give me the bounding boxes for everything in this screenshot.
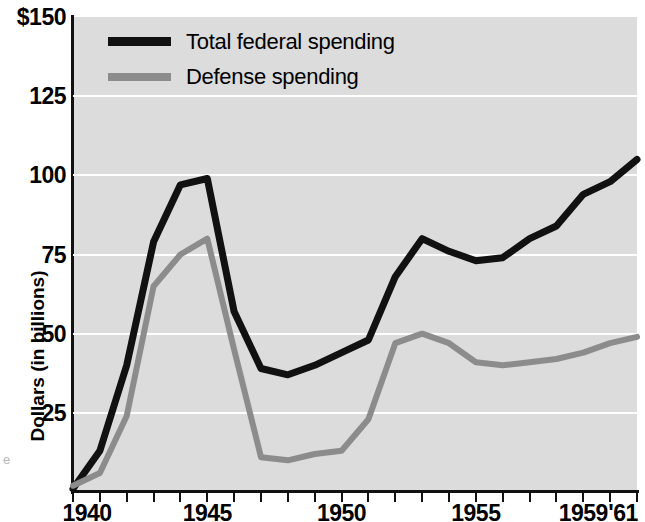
- x-tick: [260, 491, 262, 502]
- x-tick: [394, 491, 396, 502]
- y-tick-label: 100: [29, 162, 66, 189]
- x-tick: [555, 491, 557, 502]
- legend-item: Defense spending: [108, 59, 395, 94]
- y-axis-title: Dollars (in billions): [27, 222, 49, 490]
- x-tick-label: 1940: [62, 500, 111, 522]
- gridline: [73, 333, 637, 335]
- x-tick: [502, 491, 504, 502]
- x-tick-label: 1950: [317, 500, 366, 522]
- page-margin-artifact: e: [3, 452, 10, 467]
- x-tick-label: 1959: [559, 500, 608, 522]
- legend-label: Total federal spending: [186, 29, 395, 55]
- x-tick: [421, 491, 423, 502]
- gridline: [73, 254, 637, 256]
- x-tick-label: 1955: [451, 500, 500, 522]
- x-tick: [126, 491, 128, 502]
- spending-line-chart: $150125100755025 19401945195019551959'61…: [0, 0, 645, 522]
- legend-swatch-defense: [108, 73, 171, 81]
- gridline: [73, 412, 637, 414]
- legend-label: Defense spending: [186, 64, 359, 90]
- gridline: [73, 95, 637, 97]
- x-tick: [448, 491, 450, 502]
- chart-legend: Total federal spendingDefense spending: [108, 24, 395, 94]
- x-tick: [367, 491, 369, 502]
- legend-item: Total federal spending: [108, 24, 395, 59]
- x-tick-label: 1945: [183, 500, 232, 522]
- y-tick-label: $150: [17, 4, 66, 31]
- x-tick: [233, 491, 235, 502]
- x-tick: [179, 491, 181, 502]
- x-tick: [153, 491, 155, 502]
- x-tick-label: '61: [608, 500, 638, 522]
- legend-swatch-total: [108, 37, 171, 46]
- y-tick-label: 125: [29, 83, 66, 110]
- x-axis-line: [71, 490, 639, 493]
- gridline: [73, 174, 637, 176]
- x-tick: [287, 491, 289, 502]
- x-tick: [529, 491, 531, 502]
- x-tick: [314, 491, 316, 502]
